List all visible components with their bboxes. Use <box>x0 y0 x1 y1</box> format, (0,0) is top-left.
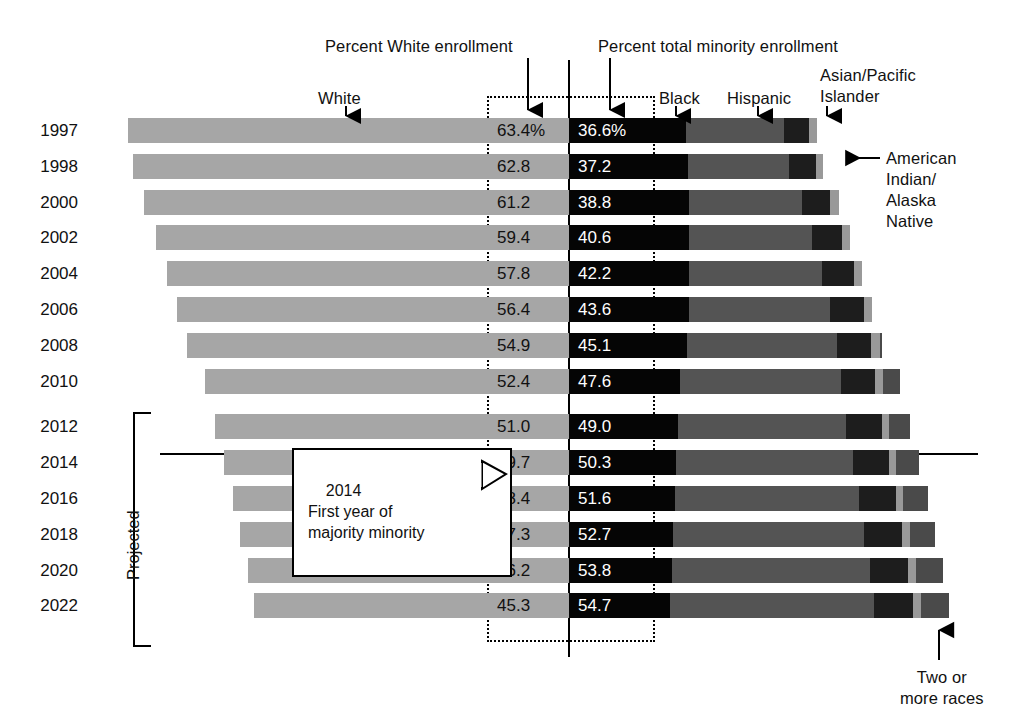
minority-value-label: 50.3 <box>578 453 611 473</box>
year-label: 2002 <box>20 228 78 248</box>
segment-american-indian-alaska-native <box>842 225 850 250</box>
segment-asian-pacific-islander <box>822 261 854 286</box>
segment-american-indian-alaska-native <box>896 486 904 511</box>
segment-asian-pacific-islander <box>841 369 876 394</box>
minority-value-label: 52.7 <box>578 525 611 545</box>
label-percent-total-minority-enrollment: Percent total minority enrollment <box>598 36 838 57</box>
white-value-label: 52.4 <box>497 372 530 392</box>
bar-row <box>205 369 900 394</box>
segment-asian-pacific-islander <box>802 190 830 215</box>
segment-american-indian-alaska-native <box>908 558 916 583</box>
segment-asian-pacific-islander <box>812 225 843 250</box>
segment-two-or-more-races <box>889 414 909 439</box>
year-label: 1998 <box>20 157 78 177</box>
minority-value-label: 51.6 <box>578 489 611 509</box>
minority-value-label: 54.7 <box>578 596 611 616</box>
year-label: 2016 <box>20 489 78 509</box>
segment-hispanic <box>672 558 870 583</box>
label-percent-white-enrollment: Percent White enrollment <box>325 36 513 57</box>
year-label: 2004 <box>20 264 78 284</box>
segment-hispanic <box>680 369 841 394</box>
year-label: 2022 <box>20 596 78 616</box>
minority-value-label: 36.6% <box>578 121 626 141</box>
segment-two-or-more-races <box>883 369 900 394</box>
segment-asian-pacific-islander <box>830 297 863 322</box>
segment-hispanic <box>689 225 812 250</box>
bar-row <box>144 190 839 215</box>
white-value-label: 61.2 <box>497 193 530 213</box>
white-value-label: 62.8 <box>497 157 530 177</box>
label-two-or-more-races: Two or more races <box>900 667 984 709</box>
segment-hispanic <box>675 486 859 511</box>
segment-hispanic <box>689 261 822 286</box>
white-value-label: 45.3 <box>497 596 530 616</box>
segment-hispanic <box>688 154 789 179</box>
bar-row <box>215 414 910 439</box>
segment-hispanic <box>687 333 836 358</box>
segment-asian-pacific-islander <box>837 333 872 358</box>
segment-american-indian-alaska-native <box>875 369 883 394</box>
segment-asian-pacific-islander <box>789 154 816 179</box>
minority-value-label: 45.1 <box>578 336 611 356</box>
bar-row <box>128 118 823 143</box>
minority-value-label: 42.2 <box>578 264 611 284</box>
segment-asian-pacific-islander <box>846 414 881 439</box>
year-label: 2010 <box>20 372 78 392</box>
segment-american-indian-alaska-native <box>889 450 897 475</box>
segment-hispanic <box>689 190 802 215</box>
segment-american-indian-alaska-native <box>854 261 862 286</box>
segment-hispanic <box>670 593 874 618</box>
segment-american-indian-alaska-native <box>902 522 910 547</box>
white-value-label: 51.0 <box>497 417 530 437</box>
year-label: 2006 <box>20 300 78 320</box>
segment-two-or-more-races <box>903 486 927 511</box>
label-white: White <box>318 88 361 109</box>
segment-hispanic <box>689 297 831 322</box>
segment-american-indian-alaska-native <box>830 190 838 215</box>
segment-two-or-more-races <box>896 450 918 475</box>
segment-hispanic <box>686 118 783 143</box>
segment-two-or-more-races <box>916 558 943 583</box>
minority-value-label: 40.6 <box>578 228 611 248</box>
segment-asian-pacific-islander <box>870 558 908 583</box>
year-label: 2008 <box>20 336 78 356</box>
segment-hispanic <box>678 414 846 439</box>
minority-value-label: 37.2 <box>578 157 611 177</box>
year-label: 1997 <box>20 121 78 141</box>
minority-value-label: 49.0 <box>578 417 611 437</box>
callout-text: 2014 First year of majority minority <box>308 482 424 541</box>
bar-row <box>133 154 828 179</box>
minority-value-label: 53.8 <box>578 561 611 581</box>
chart-canvas: Percent White enrollment Percent total m… <box>0 0 1020 716</box>
label-american-indian-alaska-native: American Indian/ Alaska Native <box>886 148 957 232</box>
label-black: Black <box>659 88 700 109</box>
year-label: 2018 <box>20 525 78 545</box>
year-label: 2020 <box>20 561 78 581</box>
segment-asian-pacific-islander <box>784 118 810 143</box>
segment-asian-pacific-islander <box>874 593 913 618</box>
segment-american-indian-alaska-native <box>871 333 879 358</box>
white-value-label: 59.4 <box>497 228 530 248</box>
year-label: 2014 <box>20 453 78 473</box>
minority-value-label: 47.6 <box>578 372 611 392</box>
segment-two-or-more-races <box>880 333 883 358</box>
segment-asian-pacific-islander <box>859 486 896 511</box>
segment-american-indian-alaska-native <box>882 414 890 439</box>
minority-value-label: 43.6 <box>578 300 611 320</box>
callout-2014-majority-minority: 2014 First year of majority minority <box>292 448 512 577</box>
segment-two-or-more-races <box>921 593 949 618</box>
white-value-label: 56.4 <box>497 300 530 320</box>
label-projected: Projected <box>124 510 143 580</box>
segment-american-indian-alaska-native <box>816 154 824 179</box>
segment-asian-pacific-islander <box>853 450 889 475</box>
segment-american-indian-alaska-native <box>913 593 921 618</box>
segment-american-indian-alaska-native <box>809 118 817 143</box>
segment-hispanic <box>676 450 853 475</box>
label-hispanic: Hispanic <box>727 88 791 109</box>
segment-asian-pacific-islander <box>864 522 902 547</box>
segment-american-indian-alaska-native <box>864 297 872 322</box>
label-asian-pacific-islander: Asian/Pacific Islander <box>820 65 916 107</box>
white-value-label: 54.9 <box>497 336 530 356</box>
bar-row <box>187 333 882 358</box>
minority-value-label: 38.8 <box>578 193 611 213</box>
